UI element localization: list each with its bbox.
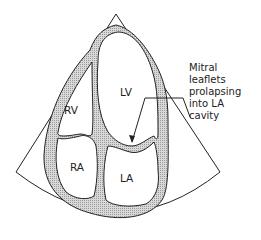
label-ra: RA — [70, 161, 85, 173]
label-rv: RV — [64, 104, 79, 116]
annotation-line-2: leaflets — [189, 74, 226, 85]
annotation-line-1: Mitral — [189, 62, 217, 73]
label-la: LA — [120, 172, 134, 184]
label-lv: LV — [120, 86, 133, 98]
annotation-line-3: prolapsing — [189, 86, 241, 97]
annotation-line-4: into LA — [189, 98, 224, 109]
annotation-line-5: cavity — [189, 110, 219, 121]
echo-four-chamber-diagram: LV RV RA LA Mitral leaflets prolapsing i… — [0, 0, 261, 240]
